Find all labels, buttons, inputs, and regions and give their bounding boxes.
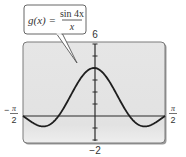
y-max-label: 6	[92, 29, 98, 40]
x-max-label: π 2	[169, 104, 177, 125]
callout-lhs: g(x) =	[28, 14, 56, 27]
x-min-label: − π 2	[4, 104, 18, 125]
x-min-sign: −	[4, 105, 9, 115]
chart-canvas: g(x) = sin 4x x 6 −2 − π 2 π 2	[0, 0, 186, 157]
callout-numerator: sin 4x	[60, 8, 84, 19]
graph-figure: g(x) = sin 4x x 6 −2 − π 2 π 2	[0, 0, 186, 157]
callout-denominator: x	[69, 21, 75, 32]
x-max-numerator: π	[171, 104, 176, 113]
x-max-denominator: 2	[170, 115, 175, 125]
x-min-denominator: 2	[11, 115, 16, 125]
x-min-numerator: π	[12, 104, 17, 113]
y-min-label: −2	[89, 145, 101, 156]
